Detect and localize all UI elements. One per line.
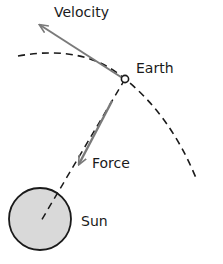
sun-label: Sun [81, 213, 108, 229]
earth-body [121, 75, 128, 82]
orbit-diagram: Velocity Earth Force Sun [0, 0, 223, 264]
earth-label: Earth [136, 60, 174, 76]
earth-sun-line [41, 79, 125, 221]
velocity-label: Velocity [54, 4, 109, 20]
velocity-arrow [40, 25, 124, 79]
sun-body [9, 188, 71, 250]
force-label: Force [92, 155, 130, 171]
